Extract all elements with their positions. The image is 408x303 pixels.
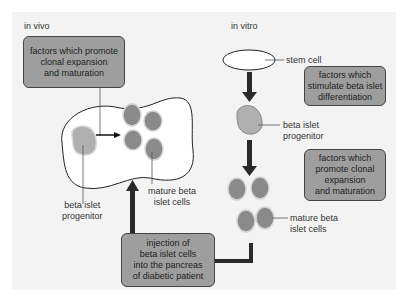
factors-differentiation-box: factors which stimulate beta islet diffe… bbox=[304, 66, 386, 106]
mature-cell bbox=[237, 210, 255, 232]
mature-cell bbox=[256, 207, 274, 229]
mature-cells-label-in-vivo: mature beta islet cells bbox=[148, 186, 196, 208]
factors-clonal-expansion-box-in-vitro: factors which promote clonal expansion a… bbox=[304, 149, 386, 201]
progenitor-cell-in-vitro bbox=[237, 105, 262, 134]
mature-cells-label-in-vitro: mature beta islet cells bbox=[290, 213, 338, 235]
box-text: factors which promote clonal expansion a… bbox=[30, 46, 118, 79]
mature-cell bbox=[145, 138, 163, 160]
factors-clonal-expansion-box-in-vivo: factors which promote clonal expansion a… bbox=[23, 36, 125, 88]
box-text: injection of beta islet cells into the p… bbox=[133, 238, 204, 282]
progenitor-label-in-vitro: beta islet progenitor bbox=[283, 120, 324, 142]
mature-cell bbox=[123, 104, 141, 126]
in-vitro-heading: in vitro bbox=[231, 21, 258, 32]
mature-cell bbox=[124, 130, 142, 150]
in-vivo-heading: in vivo bbox=[24, 21, 50, 32]
stem-cell-label: stem cell bbox=[286, 55, 322, 66]
mature-cell bbox=[251, 177, 269, 199]
box-text: factors which promote clonal expansion a… bbox=[315, 153, 375, 197]
mature-cell bbox=[228, 178, 246, 200]
progenitor-label-in-vivo: beta islet progenitor bbox=[62, 200, 103, 222]
mature-cell bbox=[144, 111, 162, 131]
injection-box: injection of beta islet cells into the p… bbox=[121, 233, 215, 287]
progenitor-cell-in-vivo bbox=[72, 126, 97, 155]
box-text: factors which stimulate beta islet diffe… bbox=[308, 70, 383, 103]
